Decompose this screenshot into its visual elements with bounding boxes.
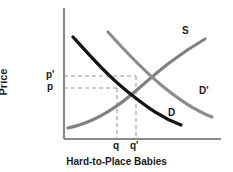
x-tick-label-q: q [113, 141, 119, 151]
y-tick-label-p-prime: p' [46, 70, 55, 80]
demand-curve-label: D [168, 108, 175, 118]
demand-curve [73, 37, 181, 125]
supply-curve-label: S [182, 26, 189, 36]
y-axis-label: Price [0, 52, 9, 112]
x-tick-label-q-prime: q' [130, 141, 139, 151]
demand-shifted-curve-label: D' [199, 86, 209, 96]
y-tick-label-p: p [47, 82, 53, 92]
supply-demand-chart: Price Hard-to-Place Babies p' p q q' S D… [0, 0, 233, 172]
x-axis-label: Hard-to-Place Babies [0, 157, 233, 167]
